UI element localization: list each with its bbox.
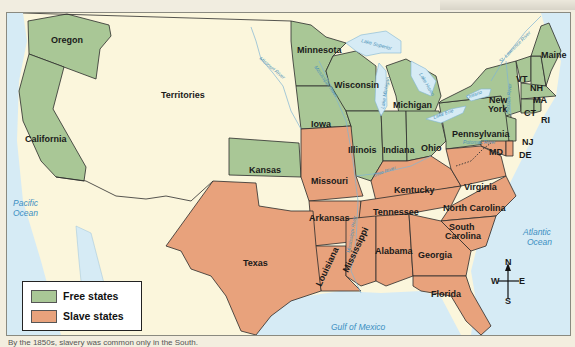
label-potomac-river: Potomac River xyxy=(463,139,496,145)
label-missouri: Missouri xyxy=(311,176,348,186)
label-georgia: Georgia xyxy=(418,250,453,260)
compass-e: E xyxy=(519,276,525,286)
label-territories: Territories xyxy=(161,90,205,100)
label-de: DE xyxy=(519,150,532,160)
legend-label-free: Free states xyxy=(63,290,118,302)
label-north-carolina: North Carolina xyxy=(443,203,506,213)
label-minnesota: Minnesota xyxy=(297,45,342,55)
label-ri: RI xyxy=(541,115,550,125)
label-wisconsin: Wisconsin xyxy=(334,80,379,90)
label-gulf-of-mexico: Gulf of Mexico xyxy=(331,322,386,332)
label-pacific-2: Ocean xyxy=(13,208,38,218)
map-legend: Free states Slave states xyxy=(22,281,142,331)
label-kentucky: Kentucky xyxy=(394,185,435,195)
compass-w: W xyxy=(491,276,500,286)
page-top-shadow xyxy=(440,0,575,10)
legend-label-slave: Slave states xyxy=(63,310,124,322)
legend-item-free: Free states xyxy=(31,289,118,303)
label-nh: NH xyxy=(530,83,543,93)
label-tennessee: Tennessee xyxy=(373,207,419,217)
label-california: California xyxy=(25,134,68,144)
slave-states-swatch xyxy=(31,310,57,323)
compass-n: N xyxy=(505,257,512,267)
label-south-carolina-2: Carolina xyxy=(445,231,482,241)
free-states-swatch xyxy=(31,290,57,303)
label-vt: VT xyxy=(516,74,528,84)
compass-s: S xyxy=(505,296,511,306)
label-atlantic-2: Ocean xyxy=(527,237,552,247)
label-indiana: Indiana xyxy=(383,145,415,155)
legend-item-slave: Slave states xyxy=(31,309,124,323)
label-md: MD xyxy=(489,147,503,157)
label-ct: CT xyxy=(524,108,536,118)
label-arkansas: Arkansas xyxy=(309,213,350,223)
label-ma: MA xyxy=(533,95,547,105)
label-michigan: Michigan xyxy=(393,100,432,110)
label-pacific-1: Pacific xyxy=(13,198,39,208)
label-nj: NJ xyxy=(522,137,534,147)
label-iowa: Iowa xyxy=(311,119,332,129)
label-texas: Texas xyxy=(243,258,268,268)
state-delaware xyxy=(506,141,513,156)
label-pennsylvania: Pennsylvania xyxy=(452,129,511,139)
map-caption: By the 1850s, slavery was common only in… xyxy=(8,338,198,347)
label-alabama: Alabama xyxy=(375,246,414,256)
label-florida: Florida xyxy=(431,289,462,299)
label-oregon: Oregon xyxy=(51,35,83,45)
label-ohio: Ohio xyxy=(421,143,442,153)
label-virginia: Virginia xyxy=(464,182,498,192)
label-atlantic-1: Atlantic xyxy=(522,227,552,237)
label-kansas: Kansas xyxy=(249,165,281,175)
label-illinois: Illinois xyxy=(348,145,377,155)
label-maine: Maine xyxy=(541,50,567,60)
